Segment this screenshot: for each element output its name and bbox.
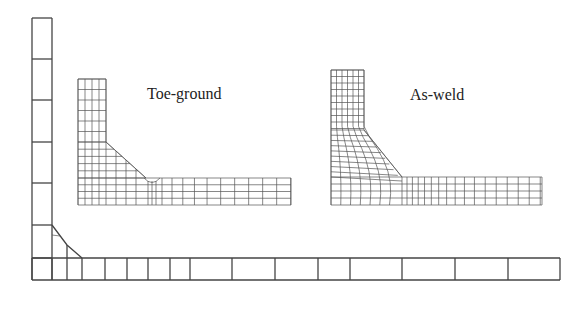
as-weld-label: As-weld <box>410 86 464 103</box>
fe-mesh-diagram: Toe-ground As-weld <box>0 0 588 311</box>
toe-ground-label: Toe-ground <box>147 85 221 103</box>
